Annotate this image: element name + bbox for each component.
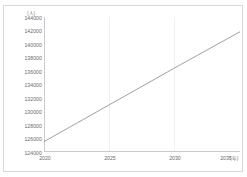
y-tick-label: 142000 [8, 28, 42, 34]
y-tick-label: 138000 [8, 55, 42, 61]
x-tick-label: 2020 [32, 155, 58, 162]
y-tick-label: 132000 [8, 96, 42, 102]
y-tick-label: 136000 [8, 69, 42, 75]
x-axis-unit-label: (年) [230, 155, 238, 162]
y-tick-label: 140000 [8, 42, 42, 48]
y-tick-label: 126000 [8, 136, 42, 142]
y-tick-label: 130000 [8, 109, 42, 115]
x-tick-label: 2030 [162, 155, 188, 162]
x-axis-line [44, 151, 240, 152]
y-tick-label: 134000 [8, 82, 42, 88]
chart-figure: (人) 144000 142000 140000 138000 136000 1… [0, 0, 247, 177]
y-tick-label: 144000 [8, 15, 42, 21]
series-line-chart [44, 17, 240, 151]
x-tick-label: 2025 [97, 155, 123, 162]
series-line-path [44, 32, 240, 142]
y-axis-tick-labels: 144000 142000 140000 138000 136000 13400… [5, 0, 42, 177]
y-tick-label: 128000 [8, 123, 42, 129]
